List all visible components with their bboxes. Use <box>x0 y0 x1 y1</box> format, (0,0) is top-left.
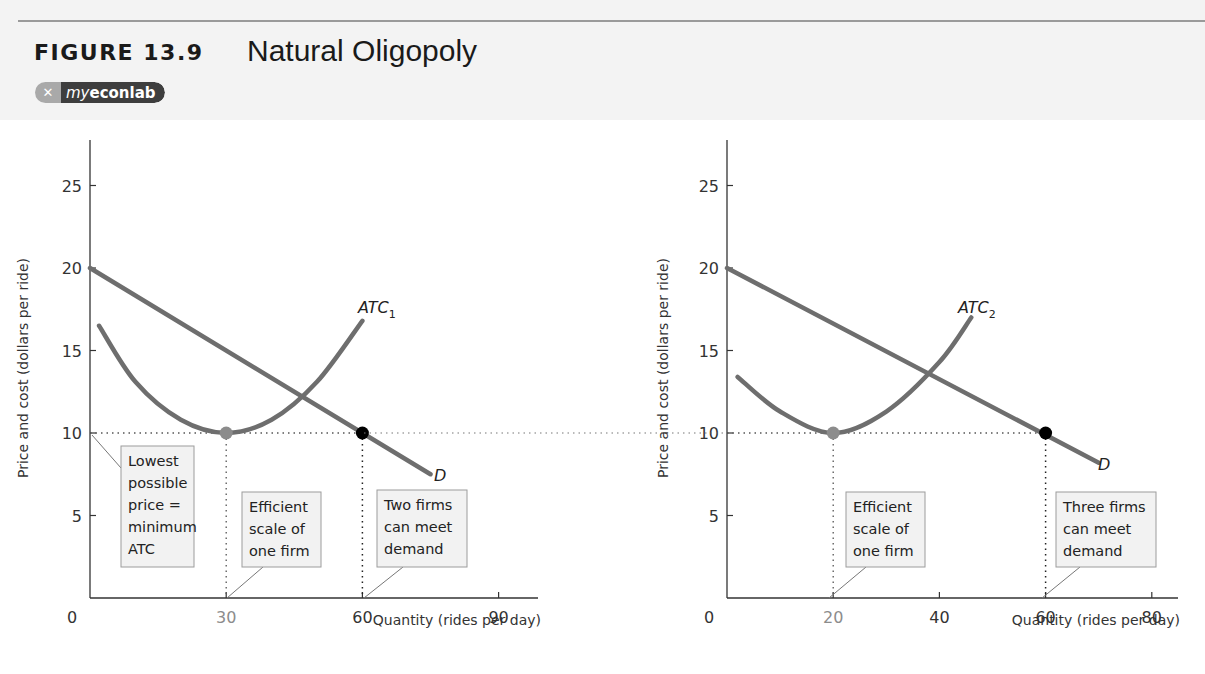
y-tick-label: 20 <box>62 259 82 278</box>
annotation-leader <box>829 567 866 598</box>
y-tick-label: 20 <box>699 259 719 278</box>
min-atc-point <box>220 427 233 440</box>
y-tick-label: 5 <box>709 507 719 526</box>
annotation-text: Three firms <box>1062 499 1146 515</box>
x-axis-label: Quantity (rides per day) <box>373 612 541 628</box>
annotation-text: Two firms <box>383 497 452 513</box>
x-tick-label: 40 <box>929 608 949 627</box>
annotation-text: scale of <box>249 521 306 537</box>
annotation-text: price = <box>128 497 181 513</box>
annotation-text: can meet <box>384 519 453 535</box>
y-tick-label: 5 <box>72 507 82 526</box>
chart-panel-2: 510152025020406080Price and cost (dollar… <box>655 140 1180 628</box>
atc-curve <box>99 321 362 433</box>
atc-label: ATC2 <box>957 298 996 321</box>
annotation-text: can meet <box>1063 521 1132 537</box>
annotation-text: Efficient <box>853 499 912 515</box>
natural-oligopoly-chart: 5101520250306090Price and cost (dollars … <box>0 0 1205 674</box>
y-tick-label: 10 <box>62 424 82 443</box>
annotation-text: Lowest <box>128 453 179 469</box>
x-tick-label: 60 <box>352 608 372 627</box>
equilibrium-point <box>356 427 369 440</box>
annotation-text: one firm <box>853 543 914 559</box>
y-axis-label: Price and cost (dollars per ride) <box>655 258 671 478</box>
demand-label: D <box>434 466 446 485</box>
annotation-text: demand <box>384 541 444 557</box>
x-tick-label: 30 <box>216 608 236 627</box>
annotation-text: Efficient <box>249 499 308 515</box>
annotation-text: scale of <box>853 521 910 537</box>
chart-panel-1: 5101520250306090Price and cost (dollars … <box>15 140 541 628</box>
y-axis-label: Price and cost (dollars per ride) <box>15 258 31 478</box>
equilibrium-point <box>1039 427 1052 440</box>
min-atc-point <box>827 427 840 440</box>
annotation-leader <box>92 435 121 468</box>
y-tick-label: 15 <box>62 342 82 361</box>
atc-subscript: 1 <box>389 308 396 321</box>
annotation-text: one firm <box>249 543 310 559</box>
annotation-text: possible <box>128 475 187 491</box>
annotation-text: demand <box>1063 543 1123 559</box>
annotation-text: ATC <box>128 541 155 557</box>
annotation-leader <box>227 567 263 598</box>
y-tick-label: 25 <box>699 177 719 196</box>
x-tick-label: 20 <box>823 608 843 627</box>
annotation-leader <box>1042 567 1080 598</box>
y-tick-label: 10 <box>699 424 719 443</box>
annotation-text: minimum <box>128 519 197 535</box>
demand-label: D <box>1098 455 1110 474</box>
x-tick-label: 0 <box>67 608 77 627</box>
x-axis-label: Quantity (rides per day) <box>1012 612 1180 628</box>
atc-subscript: 2 <box>989 308 996 321</box>
y-tick-label: 25 <box>62 177 82 196</box>
annotation-leader <box>364 567 403 598</box>
x-tick-label: 0 <box>704 608 714 627</box>
atc-label: ATC1 <box>357 298 396 321</box>
y-tick-label: 15 <box>699 342 719 361</box>
